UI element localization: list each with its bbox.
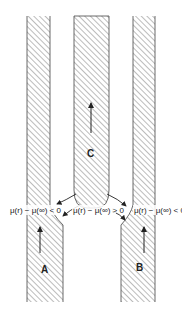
diagram-canvas: μ(r) − μ(∞) < 0 μ(r) − μ(∞) > 0 μ(r) − μ… <box>0 0 182 311</box>
column-a <box>27 16 63 302</box>
column-b <box>121 16 155 302</box>
annotation-left: μ(r) − μ(∞) < 0 <box>10 206 61 215</box>
label-b: B <box>136 262 143 273</box>
annotation-middle: μ(r) − μ(∞) > 0 <box>73 206 124 215</box>
label-c: C <box>87 148 94 159</box>
annotation-right: μ(r) − μ(∞) < 0 <box>134 206 182 215</box>
flux-arrow-c-to-a-upper-icon <box>57 194 76 204</box>
flux-arrow-c-to-b-upper-icon <box>107 194 126 206</box>
label-a: A <box>41 264 48 275</box>
